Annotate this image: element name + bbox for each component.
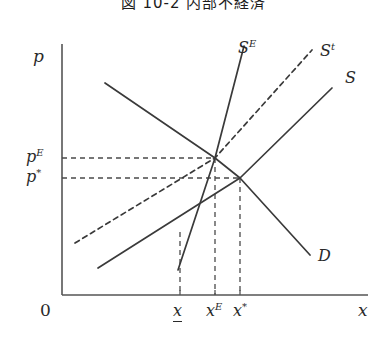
tick-label-p-E: pE [26, 149, 43, 165]
tick-label-p-star: p* [26, 169, 41, 185]
tick-label-x-E: xE [206, 303, 222, 319]
tick-label-x-underbar: x [173, 303, 182, 319]
curve-label-supply-private: S [345, 70, 356, 86]
curve-label-supply-tax: St [320, 43, 335, 59]
curves-group [75, 46, 332, 270]
origin-label: 0 [40, 300, 51, 320]
y-axis-label: p [33, 48, 44, 65]
curve-label-supply-social: SE [238, 40, 256, 56]
curve-demand [105, 83, 310, 255]
curve-supply-tax [75, 50, 312, 243]
guide-lines-group [62, 158, 240, 295]
figure-container: 図 10-2 内部不経済 0 p x SEStSDxxEx*pEp* [0, 0, 387, 344]
curve-label-demand: D [318, 248, 331, 264]
tick-label-x-star: x* [233, 303, 247, 319]
x-axis-label: x [358, 302, 368, 319]
